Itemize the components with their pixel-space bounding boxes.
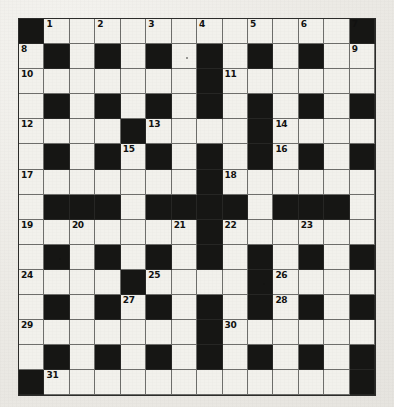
letter-cell[interactable] [324,94,349,119]
letter-cell[interactable] [121,320,146,345]
letter-cell[interactable] [44,170,69,195]
letter-cell[interactable] [172,295,197,320]
letter-cell[interactable] [70,19,95,44]
letter-cell[interactable]: 24 [19,270,44,295]
letter-cell[interactable]: 19 [19,220,44,245]
letter-cell[interactable] [172,370,197,395]
letter-cell[interactable] [248,220,273,245]
letter-cell[interactable] [44,119,69,144]
letter-cell[interactable] [121,245,146,270]
letter-cell[interactable]: 9 [350,44,375,69]
letter-cell[interactable] [121,94,146,119]
letter-cell[interactable] [172,144,197,169]
letter-cell[interactable]: 27 [121,295,146,320]
letter-cell[interactable] [95,370,120,395]
letter-cell[interactable]: 17 [19,170,44,195]
letter-cell[interactable] [70,295,95,320]
letter-cell[interactable] [273,220,298,245]
letter-cell[interactable] [146,220,171,245]
letter-cell[interactable] [19,345,44,370]
letter-cell[interactable] [223,94,248,119]
letter-cell[interactable]: 29 [19,320,44,345]
letter-cell[interactable] [70,144,95,169]
letter-cell[interactable] [350,270,375,295]
letter-cell[interactable] [19,295,44,320]
letter-cell[interactable] [121,370,146,395]
letter-cell[interactable]: 23 [299,220,324,245]
letter-cell[interactable]: 2 [95,19,120,44]
letter-cell[interactable] [223,119,248,144]
letter-cell[interactable] [44,220,69,245]
letter-cell[interactable] [350,220,375,245]
letter-cell[interactable]: 16 [273,144,298,169]
letter-cell[interactable] [223,144,248,169]
letter-cell[interactable] [95,220,120,245]
letter-cell[interactable] [350,119,375,144]
letter-cell[interactable] [70,345,95,370]
letter-cell[interactable] [146,320,171,345]
letter-cell[interactable] [299,270,324,295]
letter-cell[interactable] [273,320,298,345]
letter-cell[interactable] [223,19,248,44]
letter-cell[interactable]: 3 [146,19,171,44]
letter-cell[interactable] [223,44,248,69]
letter-cell[interactable] [172,19,197,44]
letter-cell[interactable] [172,44,197,69]
letter-cell[interactable]: 30 [223,320,248,345]
letter-cell[interactable] [172,320,197,345]
letter-cell[interactable]: 11 [223,69,248,94]
letter-cell[interactable] [324,245,349,270]
letter-cell[interactable] [44,270,69,295]
letter-cell[interactable] [70,370,95,395]
letter-cell[interactable] [324,370,349,395]
letter-cell[interactable]: 20 [70,220,95,245]
letter-cell[interactable] [172,69,197,94]
letter-cell[interactable]: 12 [19,119,44,144]
letter-cell[interactable] [44,69,69,94]
letter-cell[interactable] [248,370,273,395]
letter-cell[interactable] [324,345,349,370]
letter-cell[interactable]: 15 [121,144,146,169]
letter-cell[interactable] [121,19,146,44]
letter-cell[interactable] [324,170,349,195]
letter-cell[interactable] [95,170,120,195]
letter-cell[interactable] [273,94,298,119]
letter-cell[interactable] [172,94,197,119]
letter-cell[interactable] [350,320,375,345]
letter-cell[interactable]: 31 [44,370,69,395]
letter-cell[interactable] [19,195,44,220]
letter-cell[interactable] [350,170,375,195]
letter-cell[interactable] [324,19,349,44]
letter-cell[interactable] [248,195,273,220]
letter-cell[interactable] [19,245,44,270]
letter-cell[interactable]: 8 [19,44,44,69]
letter-cell[interactable] [273,69,298,94]
letter-cell[interactable] [299,170,324,195]
letter-cell[interactable]: 26 [273,270,298,295]
letter-cell[interactable] [273,245,298,270]
letter-cell[interactable]: 14 [273,119,298,144]
letter-cell[interactable] [95,270,120,295]
letter-cell[interactable] [324,270,349,295]
letter-cell[interactable] [299,119,324,144]
letter-cell[interactable]: 21 [172,220,197,245]
letter-cell[interactable] [197,370,222,395]
letter-cell[interactable] [70,44,95,69]
letter-cell[interactable]: 28 [273,295,298,320]
letter-cell[interactable] [197,119,222,144]
letter-cell[interactable] [121,170,146,195]
letter-cell[interactable] [19,144,44,169]
letter-cell[interactable] [248,69,273,94]
crossword-grid[interactable]: 1234567891011121314151617181920212223242… [18,18,376,396]
letter-cell[interactable] [70,245,95,270]
letter-cell[interactable] [121,44,146,69]
letter-cell[interactable] [121,195,146,220]
letter-cell[interactable] [172,119,197,144]
letter-cell[interactable] [324,220,349,245]
letter-cell[interactable]: 22 [223,220,248,245]
letter-cell[interactable] [324,44,349,69]
letter-cell[interactable] [273,170,298,195]
letter-cell[interactable] [248,170,273,195]
letter-cell[interactable] [223,370,248,395]
letter-cell[interactable] [95,320,120,345]
